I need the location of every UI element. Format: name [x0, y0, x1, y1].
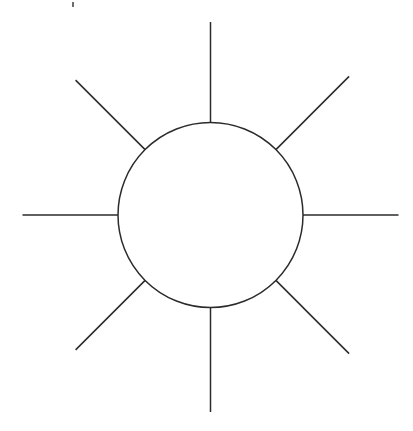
sun-figure — [0, 0, 413, 431]
page-canvas — [0, 0, 413, 431]
stray-ink-mark-artifact — [72, 2, 74, 7]
